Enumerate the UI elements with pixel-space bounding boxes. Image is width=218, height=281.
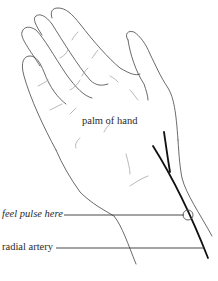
leader-lines [56,215,204,248]
radial-artery-label: radial artery [2,242,53,253]
feel-pulse-here-label: feel pulse here [2,209,63,220]
palm-of-hand-label: palm of hand [82,116,137,127]
radial-artery-lines [153,132,208,258]
hand-diagram [0,0,218,281]
hand-outline [22,8,212,264]
